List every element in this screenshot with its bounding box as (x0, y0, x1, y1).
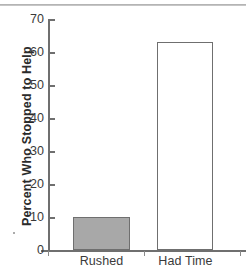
bar-had-time (157, 42, 213, 250)
y-tick-60 (49, 52, 55, 54)
y-tick-40 (49, 118, 55, 120)
category-tick-left (48, 251, 49, 256)
y-tick-0 (49, 250, 55, 252)
category-tick-right (240, 251, 241, 256)
y-tick-label-30: 30 (4, 145, 44, 158)
y-tick-label-50: 50 (4, 79, 44, 92)
y-tick-label-10: 10 (4, 211, 44, 224)
bar-chart: Percent Who Stopped to Help 0 10 20 30 4… (0, 0, 246, 274)
y-tick-50 (49, 85, 55, 87)
y-tick-label-70: 70 (4, 13, 44, 26)
y-tick-label-20: 20 (4, 178, 44, 191)
bar-rushed (73, 217, 130, 250)
category-label-had-time: Had Time (145, 255, 226, 268)
y-tick-30 (49, 151, 55, 153)
y-tick-label-0: 0 (4, 244, 44, 257)
y-tick-label-60: 60 (4, 46, 44, 59)
category-label-rushed: Rushed (61, 255, 142, 268)
y-tick-70 (49, 19, 55, 21)
y-tick-20 (49, 184, 55, 186)
y-tick-10 (49, 217, 55, 219)
scan-artifact-dot (13, 232, 15, 234)
y-tick-label-40: 40 (4, 112, 44, 125)
